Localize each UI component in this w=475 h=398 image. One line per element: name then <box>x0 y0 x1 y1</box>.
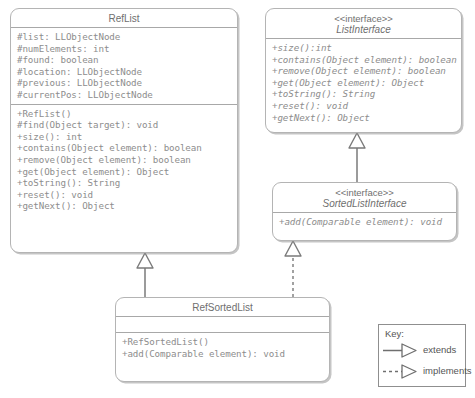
uml-class-diagram: RefList : solid vertical line + hollow t… <box>0 0 475 398</box>
method-row: +add(Comparable element): void <box>279 216 451 228</box>
methods-compartment-sortedlistinterface: +add(Comparable element): void <box>273 213 456 231</box>
stereotype-label: <<interface>> <box>277 187 452 198</box>
class-box-refsortedlist[interactable]: RefSortedList +RefSortedList() +add(Comp… <box>115 297 330 382</box>
attribute-row: #currentPos: LLObjectNode <box>17 89 232 101</box>
implements-arrowhead-refsortedlist-sortedlistinterface <box>285 241 301 256</box>
method-row: +add(Comparable element): void <box>122 348 324 360</box>
attribute-row: #found: boolean <box>17 54 232 66</box>
methods-compartment-refsortedlist: +RefSortedList() +add(Comparable element… <box>116 333 329 362</box>
attribute-row: #previous: LLObjectNode <box>17 77 232 89</box>
implements-arrow-icon <box>383 361 423 382</box>
method-row: +remove(Object element): boolean <box>17 154 232 166</box>
extends-arrowhead-sortedlistinterface-listinterface <box>349 133 365 148</box>
attribute-row: #location: LLObjectNode <box>17 66 232 78</box>
method-row: +RefSortedList() <box>122 336 324 348</box>
method-row: +getNext(): Object <box>272 112 456 124</box>
attributes-compartment-reflist: #list: LLObjectNode #numElements: int #f… <box>11 28 237 104</box>
attributes-compartment-refsortedlist <box>116 317 329 332</box>
method-row: +get(Object element): Object <box>17 166 232 178</box>
class-title-refsortedlist: RefSortedList <box>116 298 329 316</box>
interface-title-sortedlistinterface: <<interface>> SortedListInterface <box>273 183 456 212</box>
method-row: +getNext(): Object <box>17 200 232 212</box>
attribute-row: #list: LLObjectNode <box>17 31 232 43</box>
attribute-row: #numElements: int <box>17 43 232 55</box>
method-row: +reset(): void <box>17 189 232 201</box>
extends-arrowhead-refsortedlist-reflist <box>137 253 153 268</box>
methods-compartment-listinterface: +size():int +contains(Object element): b… <box>266 39 461 126</box>
interface-box-listinterface[interactable]: <<interface>> ListInterface +size():int … <box>265 8 462 133</box>
method-row: +reset(): void <box>272 100 456 112</box>
methods-compartment-reflist: +RefList() #find(Object target): void +s… <box>11 105 237 215</box>
legend-item-implements: implements <box>379 361 465 382</box>
method-row: +RefList() <box>17 108 232 120</box>
method-row: +size(): int <box>17 131 232 143</box>
method-row: +toString(): String <box>17 177 232 189</box>
extends-arrow-icon <box>383 340 423 361</box>
interface-name-label: SortedListInterface <box>277 198 452 209</box>
stereotype-label: <<interface>> <box>270 13 457 24</box>
method-row: +toString(): String <box>272 88 456 100</box>
legend-label-extends: extends <box>423 344 456 355</box>
method-row: +contains(Object element): boolean <box>17 142 232 154</box>
legend-key-box: Key: extends implements <box>378 324 466 387</box>
interface-name-label: ListInterface <box>270 24 457 35</box>
interface-title-listinterface: <<interface>> ListInterface <box>266 9 461 38</box>
class-box-reflist[interactable]: RefList #list: LLObjectNode #numElements… <box>10 8 238 253</box>
method-row: +size():int <box>272 42 456 54</box>
legend-title: Key: <box>379 325 465 340</box>
interface-box-sortedlistinterface[interactable]: <<interface>> SortedListInterface +add(C… <box>272 182 457 241</box>
class-title-reflist: RefList <box>11 9 237 27</box>
method-row: #find(Object target): void <box>17 119 232 131</box>
method-row: +get(Object element): Object <box>272 77 456 89</box>
legend-item-extends: extends <box>379 340 465 361</box>
method-row: +contains(Object element): boolean <box>272 54 456 66</box>
method-row: +remove(Object element): boolean <box>272 65 456 77</box>
legend-label-implements: implements <box>423 365 472 376</box>
